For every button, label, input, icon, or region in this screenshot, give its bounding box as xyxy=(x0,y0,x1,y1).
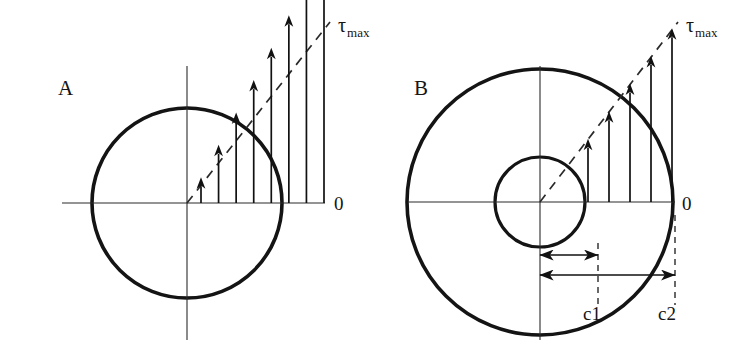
panel-a: A0τmax xyxy=(58,0,370,340)
stress-envelope-dashed-line xyxy=(187,22,330,203)
diagram-canvas: A0τmax B0τmaxc1c2 xyxy=(0,0,754,358)
dimension-label-c1: c1 xyxy=(583,303,601,324)
panel-label-b: B xyxy=(414,76,428,100)
dimension-label-c2: c2 xyxy=(658,303,676,324)
panel-b: B0τmaxc1c2 xyxy=(407,14,718,340)
zero-label: 0 xyxy=(334,193,344,214)
zero-label: 0 xyxy=(682,193,692,214)
torsion-stress-figure: A0τmax B0τmaxc1c2 xyxy=(0,0,754,358)
tau-max-label: τmax xyxy=(686,14,718,40)
tau-max-label: τmax xyxy=(338,14,370,40)
panel-label-a: A xyxy=(58,76,74,100)
